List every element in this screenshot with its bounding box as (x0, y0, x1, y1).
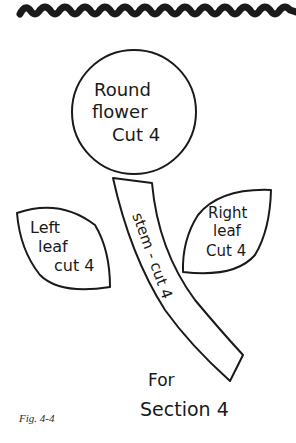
pattern-diagram: Round flower Cut 4 stem - cut 4 Left lea… (0, 0, 296, 443)
flower-label-line1: Round (94, 79, 151, 100)
flower-label-line3: Cut 4 (112, 124, 160, 145)
right-leaf-label-line2: leaf (213, 222, 242, 240)
left-leaf-label-line2: leaf (38, 237, 68, 256)
left-leaf-piece: Left leaf cut 4 (17, 208, 110, 290)
figure-caption: Fig. 4-4 (19, 412, 54, 424)
flower-label-line2: flower (92, 101, 148, 122)
right-leaf-piece: Right leaf Cut 4 (183, 190, 271, 273)
flower-piece: Round flower Cut 4 (72, 50, 196, 174)
right-leaf-label-line3: Cut 4 (206, 242, 246, 260)
note-line2: Section 4 (140, 398, 229, 420)
section-note: For Section 4 (140, 370, 229, 420)
left-leaf-label-line1: Left (30, 218, 60, 237)
note-line1: For (148, 370, 175, 390)
ric-rac-border (20, 7, 296, 14)
left-leaf-label-line3: cut 4 (54, 256, 94, 275)
right-leaf-label-line1: Right (208, 204, 248, 222)
